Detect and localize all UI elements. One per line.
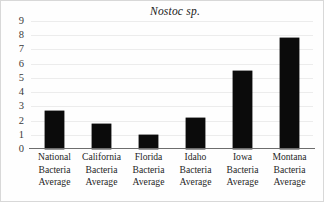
x-axis-tick-label: MontanaBacteriaAverage: [266, 151, 313, 189]
x-axis-label-line: Bacteria: [78, 164, 125, 177]
y-axis-tick-label: 5: [19, 73, 24, 84]
x-axis-tick-label: FloridaBacteriaAverage: [125, 151, 172, 189]
y-axis-tick-label: 8: [19, 30, 24, 41]
x-axis-label-line: Bacteria: [31, 164, 78, 177]
x-axis-label-line: Florida: [125, 151, 172, 164]
bar[interactable]: [186, 118, 205, 149]
y-axis-tick-label: 1: [19, 130, 24, 141]
bar[interactable]: [92, 124, 111, 149]
bar[interactable]: [139, 135, 158, 149]
x-axis-label-line: Average: [31, 176, 78, 189]
bar-slot: [31, 21, 78, 149]
x-axis-label-line: Average: [78, 176, 125, 189]
y-axis-tick-label: 2: [19, 115, 24, 126]
bar-slot: [172, 21, 219, 149]
bar-slot: [219, 21, 266, 149]
bar[interactable]: [233, 71, 252, 149]
x-axis-tick-label: IowaBacteriaAverage: [219, 151, 266, 189]
x-axis-tick-label: NationalBacteriaAverage: [31, 151, 78, 189]
chart-title: Nostoc sp.: [1, 5, 323, 17]
x-axis-label-line: Average: [266, 176, 313, 189]
y-axis: 0123456789: [1, 21, 29, 149]
y-axis-tick-label: 9: [19, 16, 24, 27]
bar-chart-figure: Nostoc sp. 0123456789 NationalBacteriaAv…: [0, 0, 324, 202]
x-axis-label-line: California: [78, 151, 125, 164]
y-axis-tick-label: 6: [19, 58, 24, 69]
plot-area: [31, 21, 313, 149]
y-axis-tick-label: 3: [19, 101, 24, 112]
x-axis-label-line: Iowa: [219, 151, 266, 164]
x-axis-label-line: National: [31, 151, 78, 164]
bar[interactable]: [45, 111, 64, 149]
x-axis-label-line: Bacteria: [172, 164, 219, 177]
x-axis-tick-label: CaliforniaBacteriaAverage: [78, 151, 125, 189]
y-axis-tick-label: 4: [19, 87, 24, 98]
x-axis-label-line: Average: [172, 176, 219, 189]
bar[interactable]: [280, 38, 299, 149]
x-axis-line: [29, 148, 315, 149]
x-axis-tick-label: IdahoBacteriaAverage: [172, 151, 219, 189]
x-axis-label-line: Idaho: [172, 151, 219, 164]
bar-slot: [125, 21, 172, 149]
x-axis-label-line: Montana: [266, 151, 313, 164]
x-axis-label-line: Bacteria: [125, 164, 172, 177]
bar-slot: [78, 21, 125, 149]
x-axis: NationalBacteriaAverageCaliforniaBacteri…: [31, 151, 313, 199]
y-axis-tick-label: 7: [19, 44, 24, 55]
bar-slot: [266, 21, 313, 149]
x-axis-label-line: Average: [125, 176, 172, 189]
y-axis-tick-label: 0: [19, 144, 24, 155]
x-axis-label-line: Bacteria: [266, 164, 313, 177]
x-axis-label-line: Average: [219, 176, 266, 189]
x-axis-label-line: Bacteria: [219, 164, 266, 177]
